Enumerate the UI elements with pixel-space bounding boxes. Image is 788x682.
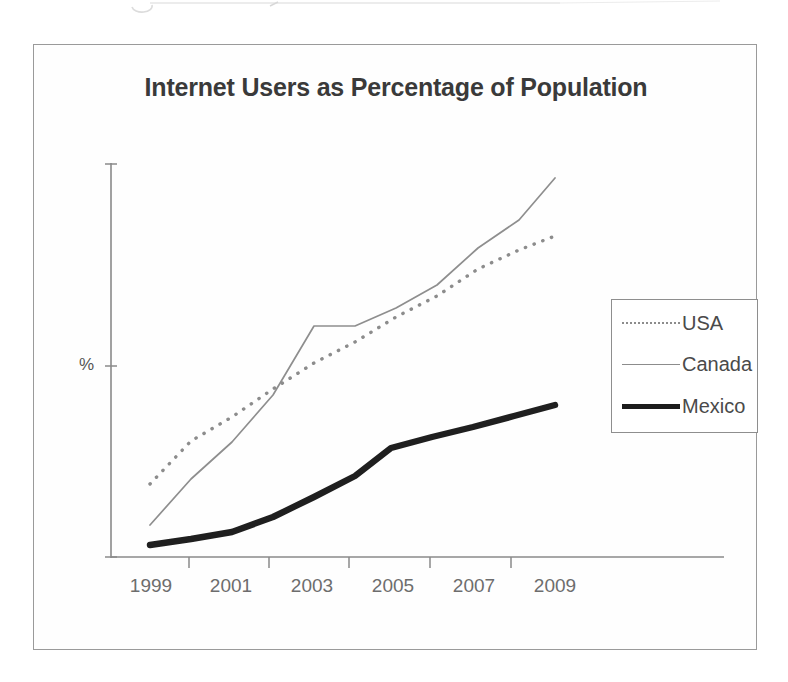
legend-label-canada: Canada xyxy=(682,354,752,374)
x-tick-label-2009: 2009 xyxy=(520,575,590,597)
dotted-line-swatch-icon xyxy=(620,315,682,331)
legend-label-usa: USA xyxy=(682,313,723,333)
legend-row-usa: USA xyxy=(612,306,759,340)
series-line-mexico xyxy=(150,405,555,545)
legend-row-canada: Canada xyxy=(612,347,759,381)
legend-row-mexico: Mexico xyxy=(612,389,759,423)
x-tick-label-1999: 1999 xyxy=(116,575,186,597)
thick-line-swatch-icon xyxy=(620,398,682,414)
chart-figure-frame: Internet Users as Percentage of Populati… xyxy=(33,44,757,650)
scan-artifact-top xyxy=(0,0,788,14)
series-line-canada xyxy=(150,178,555,525)
x-tick-label-2003: 2003 xyxy=(277,575,347,597)
series-line-usa xyxy=(150,236,555,484)
chart-legend: USA Canada Mexico xyxy=(611,299,758,433)
x-tick-label-2007: 2007 xyxy=(439,575,509,597)
thin-line-swatch-icon xyxy=(620,356,682,372)
legend-label-mexico: Mexico xyxy=(682,396,745,416)
x-tick-label-2005: 2005 xyxy=(358,575,428,597)
x-tick-label-2001: 2001 xyxy=(196,575,266,597)
